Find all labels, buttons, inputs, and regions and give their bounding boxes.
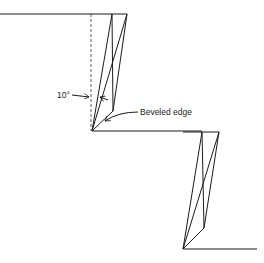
lower-step: [183, 132, 257, 249]
beveled-edge-diagram: [0, 0, 264, 263]
bevel-label: Beveled edge: [140, 107, 192, 117]
angle-label: 10°: [57, 90, 70, 100]
